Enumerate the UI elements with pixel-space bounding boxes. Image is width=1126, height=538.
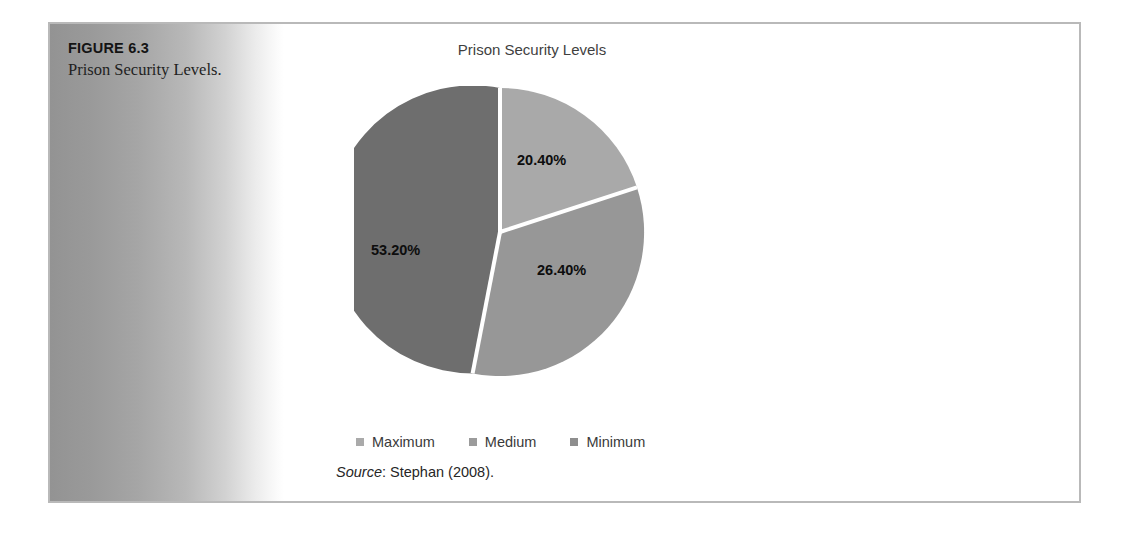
figure-caption-title: Prison Security Levels. — [68, 59, 258, 80]
legend-label-medium: Medium — [485, 434, 537, 450]
chart-area: Prison Security Levels 20.40% 26.40% 53.… — [284, 24, 1079, 501]
pie-label-maximum: 20.40% — [517, 152, 566, 168]
figure-number: FIGURE 6.3 — [68, 38, 258, 58]
legend-item-medium[interactable]: Medium — [469, 434, 537, 450]
chart-legend: Maximum Medium Minimum — [356, 434, 645, 450]
source-citation: Source: Stephan (2008). — [336, 464, 494, 480]
pie-label-medium: 26.40% — [537, 262, 586, 278]
source-label: Source — [336, 464, 382, 480]
figure-caption-panel: FIGURE 6.3 Prison Security Levels. — [50, 24, 284, 501]
pie-chart-svg — [354, 86, 646, 378]
figure-frame: FIGURE 6.3 Prison Security Levels. Priso… — [48, 22, 1081, 503]
legend-swatch-icon — [356, 438, 364, 446]
figure-caption: FIGURE 6.3 Prison Security Levels. — [68, 38, 258, 80]
legend-swatch-icon — [570, 438, 578, 446]
legend-swatch-icon — [469, 438, 477, 446]
pie-label-minimum: 53.20% — [371, 242, 420, 258]
source-reference: : Stephan (2008). — [382, 464, 494, 480]
pie-chart: 20.40% 26.40% 53.20% — [354, 86, 646, 378]
legend-label-maximum: Maximum — [372, 434, 435, 450]
chart-title: Prison Security Levels — [372, 41, 692, 58]
legend-item-minimum[interactable]: Minimum — [570, 434, 645, 450]
pie-slice-minimum — [354, 86, 500, 373]
legend-label-minimum: Minimum — [586, 434, 645, 450]
legend-item-maximum[interactable]: Maximum — [356, 434, 435, 450]
